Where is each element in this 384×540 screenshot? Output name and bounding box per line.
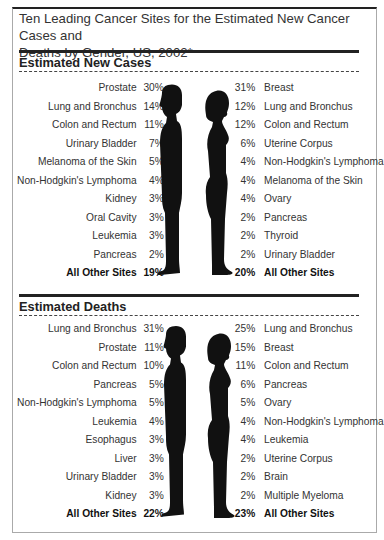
female-pct-label: 4% <box>241 153 256 169</box>
male-row: Melanoma of the Skin5% <box>20 153 170 169</box>
male-site-label: Leukemia <box>92 227 136 243</box>
male-row: Prostate11% <box>20 339 170 355</box>
female-pct-label: 2% <box>241 209 256 225</box>
female-site-label: All Other Sites <box>264 505 334 521</box>
female-site-label: Melanoma of the Skin <box>264 172 363 188</box>
male-site-label: Colon and Rectum <box>52 116 137 132</box>
female-pct-label: 25% <box>235 320 255 336</box>
male-row: Oral Cavity3% <box>20 209 170 225</box>
male-site-label: Pancreas <box>93 246 136 262</box>
male-site-label: Liver <box>114 450 136 466</box>
female-row: 2%Multiple Myeloma <box>228 487 369 503</box>
male-site-label: Kidney <box>105 190 136 206</box>
female-site-label: Ovary <box>264 190 291 206</box>
male-silhouette-icon <box>154 83 188 278</box>
female-row: 4%Ovary <box>228 190 369 206</box>
section-rule-deaths <box>19 294 359 297</box>
female-site-label: Multiple Myeloma <box>264 487 343 503</box>
female-site-label: Brain <box>264 468 288 484</box>
female-pct-label: 12% <box>235 116 255 132</box>
female-pct-label: 5% <box>241 394 256 410</box>
male-row: Non-Hodgkin's Lymphoma4% <box>20 172 170 188</box>
female-site-label: Colon and Rectum <box>264 116 349 132</box>
female-pct-label: 2% <box>241 450 256 466</box>
female-row: 4%Non-Hodgkin's Lymphoma <box>228 153 369 169</box>
female-site-label: Urinary Bladder <box>264 246 335 262</box>
male-site-label: Non-Hodgkin's Lymphoma <box>17 394 137 410</box>
male-site-label: All Other Sites <box>66 264 136 280</box>
male-row: Lung and Bronchus14% <box>20 98 170 114</box>
male-row: Colon and Rectum11% <box>20 116 170 132</box>
male-site-label: All Other Sites <box>66 505 136 521</box>
female-site-label: Non-Hodgkin's Lymphoma <box>264 413 384 429</box>
female-row: 2%Brain <box>228 468 369 484</box>
female-row: 2%Thyroid <box>228 227 369 243</box>
male-row: Kidney3% <box>20 190 170 206</box>
male-row: Leukemia3% <box>20 227 170 243</box>
female-row: 2%Urinary Bladder <box>228 246 369 262</box>
female-pct-label: 4% <box>241 431 256 447</box>
female-site-label: Colon and Rectum <box>264 357 349 373</box>
female-row: 4%Non-Hodgkin's Lymphoma <box>228 413 369 429</box>
female-site-label: Leukemia <box>264 431 308 447</box>
male-site-label: Colon and Rectum <box>52 357 137 373</box>
female-pct-label: 6% <box>241 135 256 151</box>
section-rule-new-cases <box>19 50 359 53</box>
male-site-label: Urinary Bladder <box>66 468 137 484</box>
male-row: Pancreas2% <box>20 246 170 262</box>
female-site-label: Lung and Bronchus <box>264 320 352 336</box>
female-pct-label: 2% <box>241 246 256 262</box>
female-row: 4%Melanoma of the Skin <box>228 172 369 188</box>
female-row: 15%Breast <box>228 339 369 355</box>
male-silhouette-icon <box>158 323 192 521</box>
female-site-label: Thyroid <box>264 227 298 243</box>
female-site-label: Breast <box>264 79 293 95</box>
female-site-label: Uterine Corpus <box>264 450 333 466</box>
dashed-rule-deaths <box>19 315 359 316</box>
female-pct-label: 23% <box>235 505 255 521</box>
female-site-label: Lung and Bronchus <box>264 98 352 114</box>
female-site-label: Pancreas <box>264 209 307 225</box>
male-site-label: Melanoma of the Skin <box>38 153 137 169</box>
male-row: Pancreas5% <box>20 376 170 392</box>
female-row: 5%Ovary <box>228 394 369 410</box>
female-row: 23%All Other Sites <box>228 505 369 521</box>
female-pct-label: 12% <box>235 98 255 114</box>
female-row: 6%Pancreas <box>228 376 369 392</box>
male-site-label: Prostate <box>99 79 137 95</box>
female-row: 20%All Other Sites <box>228 264 369 280</box>
female-row: 12%Colon and Rectum <box>228 116 369 132</box>
female-site-label: Uterine Corpus <box>264 135 333 151</box>
male-row: Leukemia4% <box>20 413 170 429</box>
male-site-label: Prostate <box>99 339 137 355</box>
female-pct-label: 20% <box>235 264 255 280</box>
female-pct-label: 2% <box>241 487 256 503</box>
female-pct-label: 11% <box>236 357 256 373</box>
male-row: All Other Sites19% <box>20 264 170 280</box>
female-site-label: Breast <box>264 339 293 355</box>
female-row: 12%Lung and Bronchus <box>228 98 369 114</box>
male-row: Esophagus3% <box>20 431 170 447</box>
male-row: Urinary Bladder7% <box>20 135 170 151</box>
male-site-label: Pancreas <box>93 376 136 392</box>
title-line-1: Ten Leading Cancer Sites for the Estimat… <box>19 10 374 44</box>
female-site-label: All Other Sites <box>264 264 334 280</box>
female-row: 6%Uterine Corpus <box>228 135 369 151</box>
male-row: Lung and Bronchus31% <box>20 320 170 336</box>
female-site-label: Ovary <box>264 394 291 410</box>
section-heading-new-cases: Estimated New Cases <box>19 55 151 70</box>
male-row: Colon and Rectum10% <box>20 357 170 373</box>
female-row: 2%Pancreas <box>228 209 369 225</box>
male-row: Kidney3% <box>20 487 170 503</box>
male-site-label: Esophagus <box>86 431 137 447</box>
female-pct-label: 4% <box>241 190 256 206</box>
female-pct-label: 4% <box>241 172 256 188</box>
female-site-label: Non-Hodgkin's Lymphoma <box>264 153 384 169</box>
female-pct-label: 2% <box>241 227 256 243</box>
male-site-label: Kidney <box>105 487 136 503</box>
dashed-rule-new-cases <box>19 71 359 72</box>
female-pct-label: 31% <box>235 79 255 95</box>
female-row: 25%Lung and Bronchus <box>228 320 369 336</box>
male-row: All Other Sites22% <box>20 505 170 521</box>
male-row: Non-Hodgkin's Lymphoma5% <box>20 394 170 410</box>
